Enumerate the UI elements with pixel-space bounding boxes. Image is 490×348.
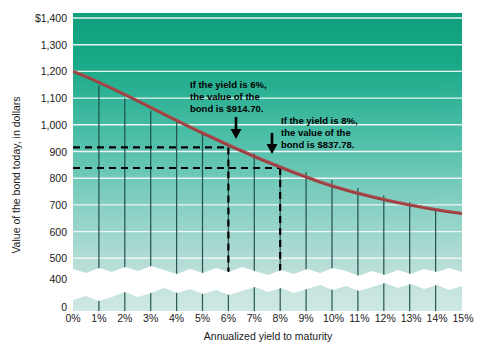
y-tick-label: 1,000 — [41, 119, 67, 131]
x-tick-label: 15% — [452, 312, 473, 324]
y-tick-label: 1,100 — [41, 92, 67, 104]
y-tick-label: 500 — [49, 252, 67, 264]
x-tick-label: 11% — [349, 312, 369, 324]
x-tick-label: 13% — [401, 312, 422, 324]
annotation-8-percent: If the yield is 8%, the value of the bon… — [267, 115, 358, 154]
y-tick-label: 400 — [49, 273, 67, 285]
x-tick-label: 4% — [169, 312, 184, 324]
y-tick-label: 900 — [49, 146, 67, 158]
x-tick-label: 1% — [91, 312, 106, 324]
y-tick-label: 700 — [49, 199, 67, 211]
x-tick-label: 0% — [65, 312, 80, 324]
x-tick-label: 8% — [273, 312, 288, 324]
x-tick-label: 3% — [143, 312, 158, 324]
x-tick-label: 14% — [427, 312, 448, 324]
plot-area — [73, 13, 462, 311]
bond-value-chart: $1,400 1,300 1,200 1,100 1,000 900 800 7… — [0, 0, 490, 348]
y-tick-label: 800 — [49, 172, 67, 184]
annotation-line: the value of the — [281, 127, 351, 138]
y-tick-label: 600 — [49, 226, 67, 238]
annotation-line: bond is $914.70. — [190, 103, 263, 114]
x-tick-label: 9% — [299, 312, 314, 324]
x-tick-label: 2% — [117, 312, 132, 324]
x-tick-label: 10% — [323, 312, 344, 324]
y-axis-title: Value of the bond today, in dollars — [10, 96, 22, 253]
annotation-line: bond is $837.78. — [281, 139, 354, 150]
x-tick-label: 5% — [195, 312, 210, 324]
x-tick-label: 12% — [375, 312, 396, 324]
annotation-line: the value of the — [190, 91, 260, 102]
y-tick-label: 1,300 — [41, 39, 67, 51]
annotation-line: If the yield is 6%, — [190, 79, 267, 90]
y-tick-label: $1,400 — [35, 12, 67, 24]
chart-figure: $1,400 1,300 1,200 1,100 1,000 900 800 7… — [0, 0, 490, 348]
annotation-line: If the yield is 8%, — [281, 115, 358, 126]
x-tick-label: 7% — [247, 312, 262, 324]
y-tick-label: 1,200 — [41, 65, 67, 77]
x-tick-label: 6% — [221, 312, 236, 324]
x-axis-title: Annualized yield to maturity — [204, 330, 333, 342]
